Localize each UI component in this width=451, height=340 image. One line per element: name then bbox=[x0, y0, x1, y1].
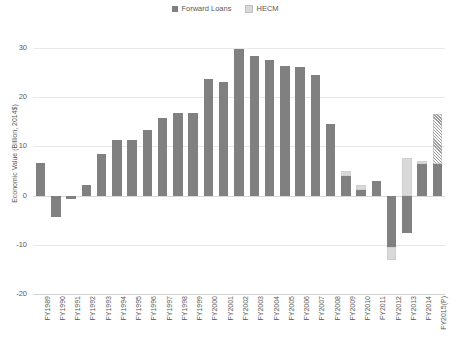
y-tick-label-30: 30 bbox=[3, 43, 27, 52]
x-tick-label-FY1990: FY1990 bbox=[59, 296, 66, 321]
x-tick-label-FY1995: FY1995 bbox=[135, 296, 142, 321]
legend-item-forward-loans: Forward Loans bbox=[172, 4, 231, 13]
legend-label-forward-loans: Forward Loans bbox=[181, 4, 231, 13]
bar-FY1997[interactable] bbox=[158, 48, 167, 294]
bar-segment-forward-FY2001 bbox=[219, 82, 228, 196]
x-tick-label-FY1992: FY1992 bbox=[89, 296, 96, 321]
bar-segment-forward-FY2007 bbox=[311, 75, 320, 196]
bar-FY2014[interactable] bbox=[417, 48, 426, 294]
bar-segment-forward-FY1999 bbox=[188, 113, 197, 195]
bar-FY2001[interactable] bbox=[219, 48, 228, 294]
bar-segment-forward-FY2010 bbox=[356, 190, 365, 196]
x-tick-label-FY1997: FY1997 bbox=[166, 296, 173, 321]
x-tick-label-FY2010: FY2010 bbox=[364, 296, 371, 321]
bar-segment-forward-FY1992 bbox=[82, 185, 91, 196]
bar-FY1990[interactable] bbox=[51, 48, 60, 294]
bar-segment-forward-FY1996 bbox=[143, 130, 152, 196]
y-tick-label-20: 20 bbox=[3, 92, 27, 101]
y-tick-label-0: 0 bbox=[3, 191, 27, 200]
bar-segment-forward-FY2012 bbox=[387, 196, 396, 247]
bar-segment-hecm-FY2009 bbox=[341, 171, 350, 176]
y-tick-label-10: 10 bbox=[3, 141, 27, 150]
bar-segment-forward-FY2013 bbox=[402, 196, 411, 233]
bar-segment-forward-FY1993 bbox=[97, 154, 106, 196]
bar-FY2005[interactable] bbox=[280, 48, 289, 294]
bar-segment-forward-FY1990 bbox=[51, 196, 60, 218]
bar-segment-forward-FY1989 bbox=[36, 163, 45, 195]
bar-FY1998[interactable] bbox=[173, 48, 182, 294]
bar-segment-forward-FY2015(P) bbox=[433, 164, 442, 195]
bar-segment-hecm-FY2013 bbox=[402, 158, 411, 195]
x-tick-label-FY2006: FY2006 bbox=[303, 296, 310, 321]
legend-swatch-hecm bbox=[245, 5, 253, 13]
x-tick-label-FY2001: FY2001 bbox=[227, 296, 234, 321]
bar-FY2002[interactable] bbox=[234, 48, 243, 294]
x-tick-label-FY2007: FY2007 bbox=[318, 296, 325, 321]
bar-segment-forward-FY2014 bbox=[417, 164, 426, 195]
bar-FY2009[interactable] bbox=[341, 48, 350, 294]
x-tick-label-FY1989: FY1989 bbox=[44, 296, 51, 321]
bar-FY1992[interactable] bbox=[82, 48, 91, 294]
x-tick-label-FY2005: FY2005 bbox=[288, 296, 295, 321]
bar-segment-forward-FY1994 bbox=[112, 140, 121, 195]
bar-segment-forward-FY1991 bbox=[66, 196, 75, 199]
x-tick-label-FY2015(P): FY2015(P) bbox=[440, 296, 447, 330]
legend-label-hecm: HECM bbox=[256, 4, 278, 13]
x-tick-label-FY1996: FY1996 bbox=[150, 296, 157, 321]
bar-FY1994[interactable] bbox=[112, 48, 121, 294]
bar-segment-forward-FY1998 bbox=[173, 113, 182, 195]
x-tick-label-FY2008: FY2008 bbox=[334, 296, 341, 321]
bar-segment-projected-FY2015(P) bbox=[433, 114, 442, 164]
y-tick-label--20: -20 bbox=[3, 289, 27, 298]
bar-FY2008[interactable] bbox=[326, 48, 335, 294]
bar-FY2000[interactable] bbox=[204, 48, 213, 294]
bar-FY2011[interactable] bbox=[372, 48, 381, 294]
bar-FY1999[interactable] bbox=[188, 48, 197, 294]
legend-item-hecm: HECM bbox=[245, 4, 278, 13]
chart-legend: Forward Loans HECM bbox=[0, 4, 451, 13]
y-tick-label--10: -10 bbox=[3, 240, 27, 249]
x-tick-label-FY1999: FY1999 bbox=[196, 296, 203, 321]
bar-segment-hecm-FY2014 bbox=[417, 161, 426, 164]
bar-segment-forward-FY2000 bbox=[204, 79, 213, 196]
x-tick-label-FY1998: FY1998 bbox=[181, 296, 188, 321]
plot-area bbox=[33, 48, 445, 294]
x-tick-label-FY2013: FY2013 bbox=[410, 296, 417, 321]
x-tick-label-FY2003: FY2003 bbox=[257, 296, 264, 321]
legend-swatch-forward-loans bbox=[172, 6, 178, 12]
bar-segment-hecm-FY2010 bbox=[356, 185, 365, 189]
bar-FY1996[interactable] bbox=[143, 48, 152, 294]
bar-segment-forward-FY2003 bbox=[250, 56, 259, 195]
bar-FY1989[interactable] bbox=[36, 48, 45, 294]
bar-segment-forward-FY2002 bbox=[234, 49, 243, 196]
bar-segment-forward-FY2008 bbox=[326, 124, 335, 196]
bar-segment-forward-FY2005 bbox=[280, 66, 289, 196]
bar-FY2012[interactable] bbox=[387, 48, 396, 294]
x-tick-label-FY1993: FY1993 bbox=[105, 296, 112, 321]
bar-segment-forward-FY2006 bbox=[295, 67, 304, 196]
bar-FY2010[interactable] bbox=[356, 48, 365, 294]
x-tick-label-FY2000: FY2000 bbox=[211, 296, 218, 321]
x-axis-tick-labels: FY1989FY1990FY1991FY1992FY1993FY1994FY19… bbox=[33, 296, 445, 340]
bar-FY2004[interactable] bbox=[265, 48, 274, 294]
x-tick-label-FY2009: FY2009 bbox=[349, 296, 356, 321]
x-tick-label-FY1994: FY1994 bbox=[120, 296, 127, 321]
bar-segment-forward-FY2011 bbox=[372, 181, 381, 196]
bar-FY2007[interactable] bbox=[311, 48, 320, 294]
bar-segment-hecm-FY2012 bbox=[387, 247, 396, 260]
x-tick-label-FY2014: FY2014 bbox=[425, 296, 432, 321]
bar-FY1995[interactable] bbox=[127, 48, 136, 294]
bar-FY2006[interactable] bbox=[295, 48, 304, 294]
bar-FY2003[interactable] bbox=[250, 48, 259, 294]
bar-FY2015(P)[interactable] bbox=[433, 48, 442, 294]
bar-segment-forward-FY2004 bbox=[265, 60, 274, 196]
bar-segment-forward-FY1995 bbox=[127, 140, 136, 196]
bar-segment-forward-FY2009 bbox=[341, 176, 350, 195]
x-tick-label-FY2011: FY2011 bbox=[379, 296, 386, 320]
bar-FY2013[interactable] bbox=[402, 48, 411, 294]
bar-segment-forward-FY1997 bbox=[158, 118, 167, 196]
bar-FY1991[interactable] bbox=[66, 48, 75, 294]
economic-value-bar-chart: Forward Loans HECM Economic Value (Billi… bbox=[0, 0, 451, 340]
x-tick-label-FY2002: FY2002 bbox=[242, 296, 249, 321]
bar-FY1993[interactable] bbox=[97, 48, 106, 294]
